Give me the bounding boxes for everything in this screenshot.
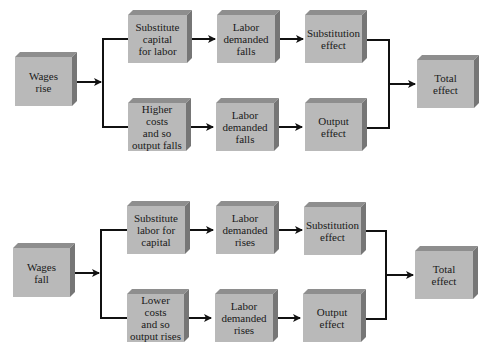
box-label: Substitute capital for labor xyxy=(133,21,181,57)
substitute-capital-box: Substitute capital for labor xyxy=(128,10,192,63)
box-label: Labor demanded falls xyxy=(221,21,270,57)
box-label: Higher costs and so output falls xyxy=(128,103,186,151)
substitution-effect-box: Substitution effect xyxy=(305,10,367,63)
wages-fall-box: Wages fall xyxy=(13,243,75,297)
box-label: Substitution effect xyxy=(304,219,361,243)
box-label: Labor demanded rises xyxy=(219,300,268,336)
box-label: Labor demanded falls xyxy=(220,109,269,145)
output-effect-box-2: Output effect xyxy=(303,289,366,342)
box-label: Output effect xyxy=(315,306,350,330)
box-label: Lower costs and so output rises xyxy=(127,294,184,342)
lower-costs-box: Lower costs and so output rises xyxy=(127,289,189,342)
substitute-labor-box: Substitute labor for capital xyxy=(127,201,190,254)
box-label: Substitute labor for capital xyxy=(132,212,180,248)
box-label: Total effect xyxy=(430,263,459,287)
box-label: Wages fall xyxy=(25,261,58,285)
labor-demanded-rises-upper-box: Labor demanded rises xyxy=(216,201,279,254)
wages-rise-box: Wages rise xyxy=(15,52,77,106)
box-label: Substitution effect xyxy=(305,27,362,51)
higher-costs-box: Higher costs and so output falls xyxy=(128,98,191,151)
box-label: Total effect xyxy=(431,72,460,96)
labor-demanded-falls-lower-box: Labor demanded falls xyxy=(216,98,279,151)
box-label: Wages rise xyxy=(27,70,60,94)
output-effect-box: Output effect xyxy=(305,98,367,151)
substitution-effect-box-2: Substitution effect xyxy=(304,202,366,255)
box-label: Labor demanded rises xyxy=(220,212,269,248)
labor-demanded-falls-upper-box: Labor demanded falls xyxy=(217,10,280,63)
labor-demanded-rises-lower-box: Labor demanded rises xyxy=(215,289,278,342)
total-effect-box-2: Total effect xyxy=(415,246,478,299)
box-label: Output effect xyxy=(316,115,351,139)
total-effect-box: Total effect xyxy=(417,55,479,108)
